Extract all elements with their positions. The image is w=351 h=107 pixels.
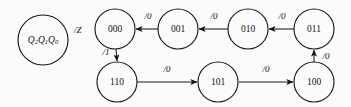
edge-label-010-to-001: /0 (209, 11, 218, 21)
legend-key: Q2Q1Q0 /Z (18, 15, 83, 65)
state-label-010: 010 (241, 24, 256, 34)
state-node-110[interactable]: 110 (97, 62, 137, 102)
state-label-011: 011 (307, 24, 321, 34)
edge-000-to-110 (116, 49, 117, 61)
state-diagram-canvas: Q2Q1Q0 /Z /0 /0 /0 /1 /0 /0 /0 000 (0, 0, 351, 107)
state-node-100[interactable]: 100 (294, 62, 334, 102)
edge-label-110-to-101: /0 (162, 64, 171, 74)
states-group: 000 001 010 011 110 101 (95, 9, 334, 102)
state-label-001: 001 (171, 24, 186, 34)
edge-label-100-to-011: /0 (321, 51, 330, 61)
edge-label-001-to-000: /0 (143, 11, 152, 21)
edge-label-011-to-010: /0 (277, 11, 286, 21)
state-label-000: 000 (108, 24, 123, 34)
state-node-011[interactable]: 011 (294, 9, 334, 49)
state-label-110: 110 (110, 77, 124, 87)
state-node-001[interactable]: 001 (158, 9, 198, 49)
legend-output-label: /Z (73, 25, 83, 35)
edge-label-101-to-100: /0 (261, 64, 270, 74)
legend-state-vars: Q2Q1Q0 (28, 35, 59, 45)
state-node-000[interactable]: 000 (95, 9, 135, 49)
edge-label-000-to-110: /1 (101, 47, 109, 57)
state-node-101[interactable]: 101 (198, 62, 238, 102)
state-node-010[interactable]: 010 (228, 9, 268, 49)
state-diagram: Q2Q1Q0 /Z /0 /0 /0 /1 /0 /0 /0 000 (0, 0, 351, 107)
state-label-101: 101 (211, 77, 226, 87)
state-label-100: 100 (307, 77, 322, 87)
